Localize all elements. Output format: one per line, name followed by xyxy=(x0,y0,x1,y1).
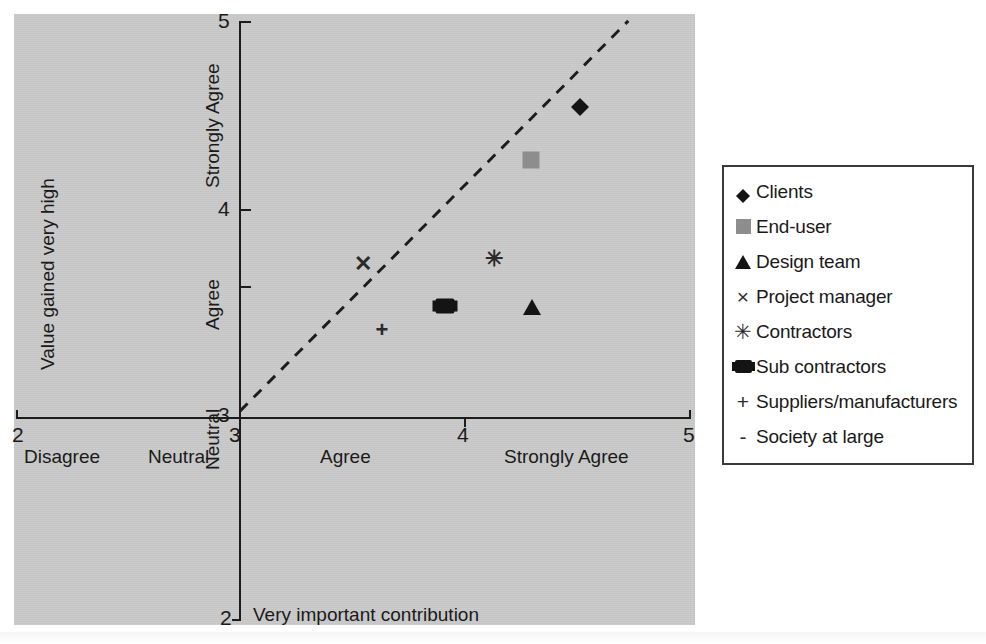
y-tick-4 xyxy=(241,209,251,211)
legend-box: Clients End-user Design team × Project m… xyxy=(722,165,974,465)
diamond-marker-icon xyxy=(571,89,589,107)
legend-label: Sub contractors xyxy=(756,356,886,378)
y-axis-bottom-cap xyxy=(232,619,241,621)
legend-item-end-user[interactable]: End-user xyxy=(724,209,972,244)
data-point-suppliers-manufacturers[interactable]: + xyxy=(376,319,389,341)
legend-item-sub-contractors[interactable]: Sub contractors xyxy=(724,349,972,384)
y-axis-title: Value gained very high xyxy=(38,178,57,370)
triangle-marker-icon xyxy=(730,255,756,269)
x-axis-right-cap xyxy=(689,410,691,419)
data-point-clients[interactable] xyxy=(571,89,589,107)
data-point-contractors[interactable]: ✳ xyxy=(485,248,503,270)
chart-page: 5 4 3 2 2 3 4 5 Value gained very high S… xyxy=(0,0,986,644)
x-axis-title: Very important contribution xyxy=(253,605,479,624)
y-tick-5 xyxy=(241,21,251,23)
legend-item-society-at-large[interactable]: - Society at large xyxy=(724,419,972,454)
x-tick-label-5: 5 xyxy=(683,424,695,445)
x-category-disagree: Disagree xyxy=(24,447,100,466)
plot-area xyxy=(14,14,695,625)
legend-label: Clients xyxy=(756,181,813,203)
legend-item-clients[interactable]: Clients xyxy=(724,174,972,209)
square-marker-icon xyxy=(523,152,540,169)
x-category-agree: Agree xyxy=(320,447,371,466)
x-category-neutral: Neutral xyxy=(148,447,209,466)
legend-item-suppliers-manufacturers[interactable]: + Suppliers/manufacturers xyxy=(724,384,972,419)
legend-list: Clients End-user Design team × Project m… xyxy=(724,167,972,454)
dash-marker-icon: - xyxy=(730,425,756,449)
legend-item-contractors[interactable]: ✳ Contractors xyxy=(724,314,972,349)
y-tick-label-4: 4 xyxy=(218,198,230,219)
square-marker-icon xyxy=(730,219,756,234)
x-category-strongly-agree: Strongly Agree xyxy=(504,447,629,466)
y-category-agree: Agree xyxy=(203,279,222,330)
data-point-end-user[interactable] xyxy=(523,152,540,169)
y-tick-minor xyxy=(241,286,251,288)
x-tick-label-3: 3 xyxy=(229,424,241,445)
x-axis-left-cap xyxy=(16,410,18,418)
legend-label: Design team xyxy=(756,251,860,273)
x-tick-label-4: 4 xyxy=(457,424,469,445)
legend-item-project-manager[interactable]: × Project manager xyxy=(724,279,972,314)
legend-label: Suppliers/manufacturers xyxy=(756,391,957,413)
x-tick-label-2: 2 xyxy=(12,424,24,445)
legend-label: Project manager xyxy=(756,286,892,308)
y-tick-label-2: 2 xyxy=(220,607,232,628)
legend-item-design-team[interactable]: Design team xyxy=(724,244,972,279)
triangle-marker-icon xyxy=(523,299,541,315)
data-point-project-manager[interactable]: ✕ xyxy=(354,253,372,275)
sub-contractors-marker-icon xyxy=(730,360,756,373)
y-tick-label-5: 5 xyxy=(218,10,230,31)
data-point-society-at-large[interactable] xyxy=(433,304,457,308)
y-axis-line xyxy=(239,21,241,621)
scan-artifact xyxy=(0,632,986,644)
legend-label: Contractors xyxy=(756,321,852,343)
diamond-marker-icon xyxy=(730,185,756,199)
y-category-strongly-agree: Strongly Agree xyxy=(203,63,222,188)
x-marker-icon: × xyxy=(730,285,756,309)
legend-label: Society at large xyxy=(756,426,884,448)
data-point-design-team[interactable] xyxy=(523,299,541,315)
plus-marker-icon: + xyxy=(730,390,756,414)
legend-label: End-user xyxy=(756,216,832,238)
asterisk-marker-icon: ✳ xyxy=(730,320,756,344)
x-axis-line xyxy=(16,417,691,419)
